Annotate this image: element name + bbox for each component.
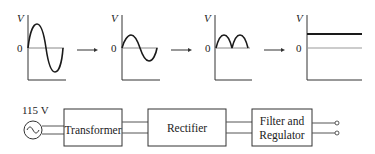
zero-label: 0 — [205, 42, 211, 54]
graph-ac-stepped-down: V 0 — [111, 12, 160, 80]
arrow-head-icon — [94, 48, 98, 52]
filter-label: Filter and — [260, 115, 305, 127]
arrow-head-icon — [281, 48, 285, 52]
transformer-label: Transformer — [64, 124, 121, 136]
regulator-label: Regulator — [259, 129, 305, 142]
power-supply-diagram: V 0 V 0 V 0 V 0 115 V — [0, 0, 375, 154]
zero-label: 0 — [296, 42, 302, 54]
y-label: V — [17, 12, 25, 24]
y-label: V — [296, 12, 304, 24]
zero-label: 0 — [111, 42, 117, 54]
arrow-head-icon — [188, 48, 192, 52]
source-voltage-label: 115 V — [22, 104, 49, 116]
block-diagram: 115 V Transformer Rectifier Filter and R… — [22, 104, 339, 146]
y-label: V — [204, 12, 212, 24]
sine-symbol-icon — [27, 127, 39, 133]
output-terminal-icon — [335, 121, 339, 125]
rectifier-label: Rectifier — [167, 122, 207, 134]
graph-ac-input: V 0 — [17, 12, 66, 80]
graph-rectified: V 0 — [204, 12, 252, 80]
zero-label: 0 — [17, 42, 23, 54]
y-label: V — [111, 12, 119, 24]
output-terminal-icon — [335, 131, 339, 135]
rectified-wave — [216, 35, 248, 48]
graph-dc-output: V 0 — [296, 12, 362, 80]
